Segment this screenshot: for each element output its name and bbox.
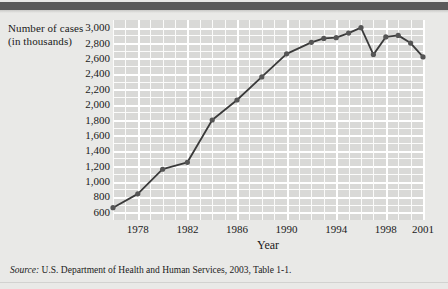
data-point bbox=[420, 54, 425, 59]
data-point bbox=[210, 117, 215, 122]
header-rule-shadow bbox=[0, 10, 448, 13]
figure-container: Number of cases (in thousands) 3,0002,80… bbox=[0, 0, 448, 289]
header-rule bbox=[0, 2, 448, 10]
source-label: Source: bbox=[10, 265, 39, 275]
x-axis-tick-labels: 1978198219861990199419982001 bbox=[113, 223, 423, 239]
data-point bbox=[110, 205, 115, 210]
y-tick-label: 1,400 bbox=[36, 145, 110, 156]
data-point bbox=[284, 51, 289, 56]
data-point bbox=[383, 34, 388, 39]
y-tick-label: 800 bbox=[36, 191, 110, 202]
y-tick-label: 1,600 bbox=[36, 130, 110, 141]
source-body: U.S. Department of Health and Human Serv… bbox=[42, 265, 292, 275]
y-tick-label: 1,800 bbox=[36, 115, 110, 126]
y-tick-label: 1,000 bbox=[36, 176, 110, 187]
series-polyline bbox=[113, 28, 423, 208]
series-line-chart bbox=[113, 20, 423, 220]
data-point bbox=[334, 35, 339, 40]
y-tick-label: 2,400 bbox=[36, 68, 110, 79]
data-point bbox=[135, 191, 140, 196]
y-tick-label: 1,200 bbox=[36, 161, 110, 172]
data-point bbox=[309, 40, 314, 45]
x-tick-label: 2001 bbox=[412, 223, 434, 235]
x-tick-label: 1990 bbox=[276, 223, 298, 235]
data-point bbox=[234, 97, 239, 102]
x-tick-label: 1982 bbox=[176, 223, 198, 235]
plot-area bbox=[113, 20, 423, 220]
series-markers bbox=[110, 25, 425, 210]
data-point bbox=[396, 33, 401, 38]
data-point bbox=[371, 52, 376, 57]
y-axis-tick-labels: 3,0002,8002,6002,4002,2002,0001,8001,600… bbox=[32, 20, 110, 220]
x-tick-label: 1978 bbox=[127, 223, 149, 235]
x-tick-label: 1998 bbox=[375, 223, 397, 235]
data-point bbox=[408, 40, 413, 45]
y-tick-label: 2,200 bbox=[36, 84, 110, 95]
data-point bbox=[346, 30, 351, 35]
data-point bbox=[185, 160, 190, 165]
data-point bbox=[160, 167, 165, 172]
x-tick-label: 1986 bbox=[226, 223, 248, 235]
y-tick-label: 3,000 bbox=[36, 22, 110, 33]
source-note: Source: U.S. Department of Health and Hu… bbox=[10, 265, 440, 276]
bottom-rule bbox=[0, 282, 448, 283]
y-tick-label: 2,800 bbox=[36, 38, 110, 49]
data-point bbox=[259, 74, 264, 79]
gridline-vertical bbox=[423, 20, 425, 220]
x-axis-title: Year bbox=[113, 238, 423, 253]
data-point bbox=[358, 25, 363, 30]
y-tick-label: 2,000 bbox=[36, 99, 110, 110]
y-tick-label: 600 bbox=[36, 207, 110, 218]
y-tick-label: 2,600 bbox=[36, 53, 110, 64]
x-tick-label: 1994 bbox=[325, 223, 347, 235]
data-point bbox=[321, 36, 326, 41]
